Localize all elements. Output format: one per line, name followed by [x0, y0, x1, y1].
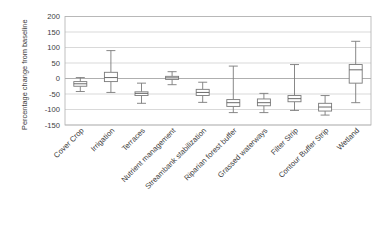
- y-axis-title: Percentage change from baseline: [20, 19, 29, 130]
- y-tick-label: 100: [47, 43, 60, 52]
- y-tick-label: 50: [52, 59, 60, 68]
- y-tick-label: 150: [47, 28, 60, 37]
- y-axis-title-text: Percentage change from baseline: [20, 19, 29, 130]
- box-plot-chart: Percentage change from baseline -150-100…: [0, 0, 379, 225]
- box-iqr: [104, 72, 117, 81]
- y-tick-label: -150: [45, 121, 60, 130]
- chart-canvas: Percentage change from baseline -150-100…: [0, 0, 379, 225]
- y-tick-label: 0: [56, 74, 60, 83]
- y-tick-label: -50: [49, 90, 60, 99]
- box-iqr: [349, 65, 362, 84]
- y-tick-label: -100: [45, 105, 60, 114]
- y-tick-label: 200: [47, 12, 60, 21]
